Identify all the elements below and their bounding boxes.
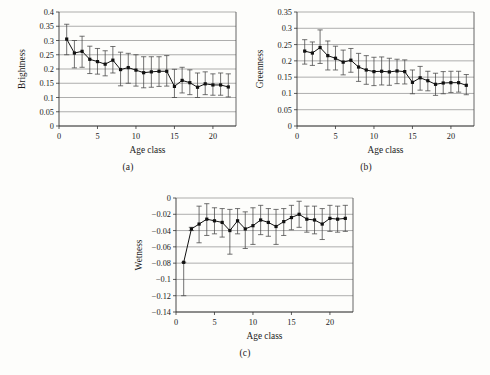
y-tick-label: 0.35 [39,22,54,31]
x-tick-label: 15 [408,132,416,141]
error-bars [181,201,348,295]
x-tick-label: 0 [174,318,178,327]
y-tick-label: 0 [50,122,54,131]
y-axis-title: Wetness [134,239,144,270]
y-tick-label: 0.1 [282,89,292,98]
y-axis-title: Greenness [255,49,265,88]
y-axis-ticks: −0.14−0.12−0.1−0.08−0.06−0.04−0.020 [152,194,176,317]
x-tick-label: 0 [295,132,299,141]
y-tick-label: 0.25 [39,51,54,60]
y-tick-label: 0.2 [282,57,292,66]
y-tick-label: 0 [167,194,171,203]
y-tick-label: 0.35 [277,8,292,17]
plot-frame [176,198,353,312]
x-tick-label: 15 [170,132,178,141]
y-tick-label: −0.08 [152,259,171,268]
x-tick-label: 0 [57,132,61,141]
chart-svg: 00.050.10.150.20.250.30.3505101520Age cl… [252,4,480,164]
x-tick-label: 20 [209,132,217,141]
series-line [305,48,467,86]
x-axis-ticks: 05101520 [295,126,455,141]
chart-svg: −0.14−0.12−0.1−0.08−0.06−0.04−0.02005101… [131,190,359,350]
y-tick-label: 0.15 [277,73,292,82]
y-tick-label: 0.15 [39,79,54,88]
x-tick-label: 20 [326,318,334,327]
x-tick-label: 10 [132,132,140,141]
x-axis-title: Age class [368,145,404,155]
figure-container: 00.050.10.150.20.250.30.350.405101520Age… [0,0,490,375]
y-tick-label: 0.1 [44,94,54,103]
y-tick-label: 0.2 [44,65,54,74]
y-tick-label: −0.04 [152,227,172,236]
y-tick-label: −0.1 [156,275,171,284]
panel-caption-b: (b) [252,162,480,172]
y-tick-label: 0.3 [44,37,54,46]
panel-caption-a: (a) [14,162,242,172]
x-tick-label: 10 [370,132,378,141]
grid-lines [59,12,236,126]
y-axis-title: Brightness [17,49,27,89]
x-axis-title: Age class [130,145,166,155]
y-tick-label: −0.14 [152,308,172,317]
chart-panel-wetness: −0.14−0.12−0.1−0.08−0.06−0.04−0.02005101… [131,190,359,350]
plot-frame [297,12,474,126]
grid-lines [297,12,474,126]
y-tick-label: −0.12 [152,292,171,301]
x-tick-label: 5 [212,318,216,327]
x-tick-label: 5 [95,132,99,141]
chart-svg: 00.050.10.150.20.250.30.350.405101520Age… [14,4,242,164]
x-tick-label: 20 [447,132,455,141]
y-axis-ticks: 00.050.10.150.20.250.30.350.4 [39,8,59,131]
grid-lines [176,198,353,312]
y-tick-label: 0 [288,122,292,131]
y-tick-label: −0.06 [152,243,171,252]
error-bars [302,30,469,95]
x-tick-label: 10 [249,318,257,327]
y-axis-ticks: 00.050.10.150.20.250.30.35 [277,8,297,131]
panel-caption-c: (c) [131,348,359,358]
y-tick-label: 0.05 [277,106,292,115]
chart-panel-greenness: 00.050.10.150.20.250.30.3505101520Age cl… [252,4,480,164]
x-axis-ticks: 05101520 [57,126,217,141]
x-tick-label: 15 [287,318,295,327]
y-tick-label: 0.05 [39,108,54,117]
x-axis-title: Age class [247,331,283,341]
y-tick-label: 0.3 [282,24,292,33]
x-axis-ticks: 05101520 [174,312,334,327]
y-tick-label: 0.4 [44,8,55,17]
series-line [184,214,346,262]
y-tick-label: 0.25 [277,41,292,50]
y-tick-label: −0.02 [152,210,171,219]
x-tick-label: 5 [333,132,337,141]
chart-panel-brightness: 00.050.10.150.20.250.30.350.405101520Age… [14,4,242,164]
